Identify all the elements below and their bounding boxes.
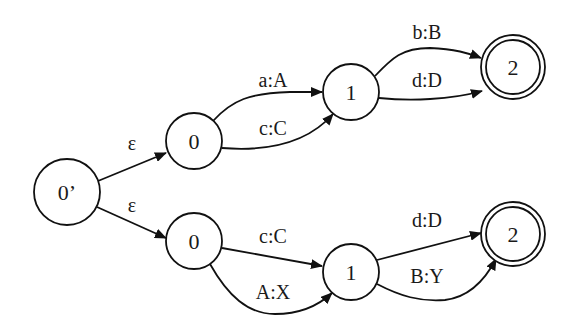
node-upper-0: 0 <box>166 113 222 169</box>
edge-label-bB: b:B <box>413 21 442 43</box>
state-label: 0’ <box>58 180 76 205</box>
edge-label-epsilon-lower: ε <box>128 194 136 216</box>
state-label: 2 <box>508 55 519 80</box>
node-start: 0’ <box>34 159 100 225</box>
edge-lower1-to-lower2-dD <box>377 233 481 260</box>
node-lower-1: 1 <box>323 244 379 300</box>
edge-label-upper-cC: c:C <box>259 117 287 139</box>
edge-label-epsilon-upper: ε <box>128 132 136 154</box>
edge-label-BY: B:Y <box>410 265 443 287</box>
transducer-diagram: ε ε a:A c:C b:B d:D c:C A:X d:D B:Y 0’ 0… <box>0 0 577 332</box>
node-upper-2-accepting: 2 <box>481 35 545 99</box>
edge-lower0-to-lower1-cC <box>222 248 322 266</box>
edge-label-AX: A:X <box>256 281 291 303</box>
state-label: 2 <box>508 222 519 247</box>
edge-start-to-upper0 <box>98 153 166 181</box>
state-label: 0 <box>189 129 200 154</box>
state-label: 1 <box>346 80 357 105</box>
state-label: 0 <box>189 229 200 254</box>
edge-label-lower-dD: d:D <box>412 209 442 231</box>
edge-label-lower-cC: c:C <box>259 225 287 247</box>
state-label: 1 <box>346 260 357 285</box>
node-lower-2-accepting: 2 <box>481 202 545 266</box>
node-upper-1: 1 <box>323 64 379 120</box>
node-lower-0: 0 <box>166 213 222 269</box>
edge-label-aA: a:A <box>259 69 288 91</box>
edge-upper1-to-upper2-dD <box>379 91 482 100</box>
edge-label-upper-dD: d:D <box>412 69 442 91</box>
